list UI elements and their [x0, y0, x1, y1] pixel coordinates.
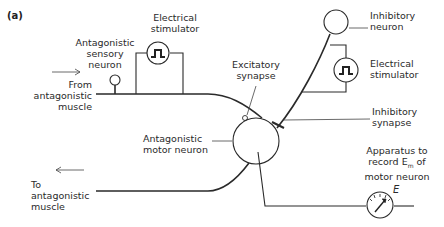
label-meter-symbol: E [393, 184, 399, 195]
label-inhibitory-synapse: Inhibitory synapse [372, 106, 442, 128]
label-line: Electrical [135, 12, 215, 23]
arrow-left-icon [56, 167, 84, 173]
sensory-axon [96, 94, 262, 118]
label-electrical-stimulator-left: Electrical stimulator [135, 12, 215, 34]
label-apparatus: Apparatus to record Em of motor neuron [352, 145, 442, 182]
label-text: of [414, 156, 426, 167]
label-line: sensory [70, 48, 140, 59]
label-line: antagonistic [20, 90, 92, 101]
electrical-stimulator-left-icon [136, 42, 183, 94]
label-line: Antagonistic [70, 37, 140, 48]
label-antagonistic-sensory-neuron: Antagonistic sensory neuron [70, 37, 140, 70]
label-line: Inhibitory [372, 106, 442, 117]
label-line: antagonistic [31, 190, 101, 201]
inhibitory-synapse-icon [272, 119, 370, 128]
label-line: Apparatus to [352, 145, 442, 156]
label-line: motor neuron [352, 171, 442, 182]
electrical-stimulator-right-icon [301, 45, 358, 92]
label-line: muscle [20, 101, 92, 112]
excitatory-synapse-icon [243, 86, 257, 121]
label-line: muscle [31, 201, 101, 212]
label-line: motor neuron [143, 144, 223, 155]
label-inhibitory-neuron: Inhibitory neuron [370, 10, 440, 32]
label-line: neuron [70, 59, 140, 70]
label-to-antagonistic-muscle: To antagonistic muscle [31, 179, 101, 212]
label-line: Antagonistic [143, 133, 223, 144]
label-line: Inhibitory [370, 10, 440, 21]
label-line: stimulator [135, 23, 215, 34]
sensory-neuron-icon [110, 75, 120, 94]
label-excitatory-synapse: Excitatory synapse [226, 59, 286, 81]
label-line: record Em of [352, 156, 442, 171]
label-line: synapse [226, 70, 286, 81]
motor-axon [96, 163, 249, 191]
label-antagonistic-motor-neuron: Antagonistic motor neuron [143, 133, 223, 155]
label-line: To [31, 179, 101, 190]
label-line: synapse [372, 117, 442, 128]
label-from-antagonistic-muscle: From antagonistic muscle [20, 79, 92, 112]
voltmeter-icon [367, 192, 393, 218]
label-line: stimulator [370, 69, 440, 80]
label-text: record E [368, 156, 407, 167]
label-line: Electrical [370, 58, 440, 69]
label-line: neuron [370, 21, 440, 32]
label-electrical-stimulator-right: Electrical stimulator [370, 58, 440, 80]
label-line: Excitatory [226, 59, 286, 70]
label-line: From [20, 79, 92, 90]
inhibitory-neuron-icon [277, 10, 368, 128]
